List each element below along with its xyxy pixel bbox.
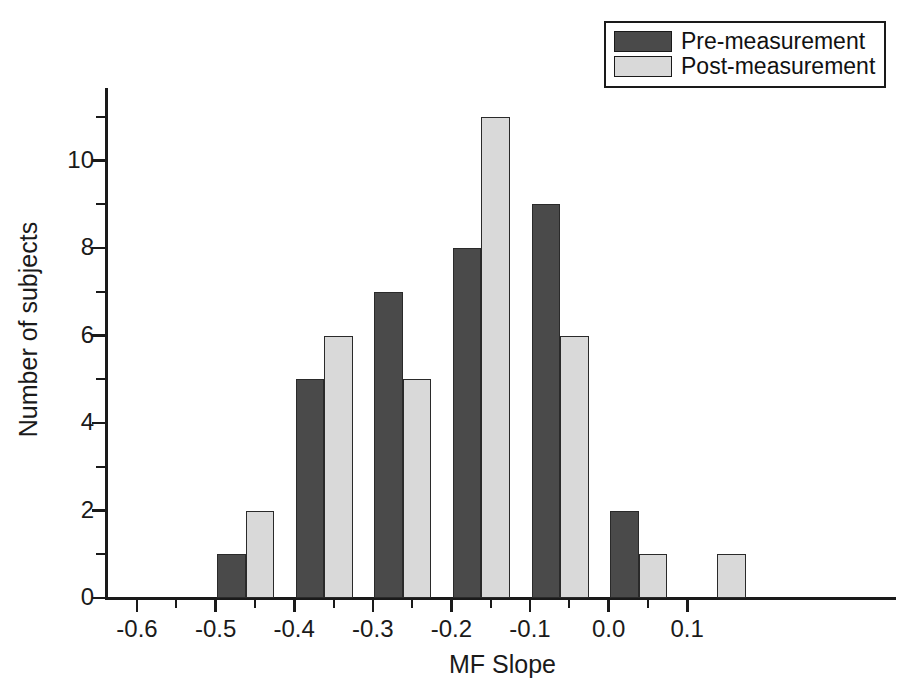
bar-post-0.1 bbox=[717, 554, 746, 598]
legend-label-pre: Pre-measurement bbox=[681, 30, 865, 53]
y-tick-label: 6 bbox=[81, 323, 94, 347]
x-tick-major bbox=[293, 599, 296, 612]
legend-entry-post: Post-measurement bbox=[614, 54, 876, 79]
x-tick-minor bbox=[647, 599, 649, 608]
x-tick-minor bbox=[411, 599, 413, 608]
y-tick-label: 4 bbox=[81, 410, 94, 434]
x-axis-title: MF Slope bbox=[105, 650, 900, 679]
x-tick-label: -0.5 bbox=[195, 616, 236, 642]
y-tick-label: 0 bbox=[81, 585, 94, 609]
x-tick-minor bbox=[333, 599, 335, 608]
bar-pre--0.3 bbox=[374, 292, 403, 598]
x-tick-label: -0.2 bbox=[431, 616, 472, 642]
y-tick-minor bbox=[96, 378, 105, 380]
legend-label-post: Post-measurement bbox=[681, 55, 875, 78]
x-tick-minor bbox=[568, 599, 570, 608]
x-tick-major bbox=[450, 599, 453, 612]
x-tick-label: -0.6 bbox=[116, 616, 157, 642]
bar-post--0.5 bbox=[246, 511, 275, 599]
bar-pre--0.1 bbox=[532, 204, 561, 598]
x-tick-major bbox=[686, 599, 689, 612]
x-tick-major bbox=[136, 599, 139, 612]
x-tick-minor bbox=[254, 599, 256, 608]
y-tick-label: 2 bbox=[81, 498, 94, 522]
x-tick-label: -0.4 bbox=[274, 616, 315, 642]
x-tick-minor bbox=[175, 599, 177, 608]
y-tick-minor bbox=[96, 553, 105, 555]
bars-layer bbox=[105, 88, 900, 598]
bar-post--0.3 bbox=[403, 379, 432, 598]
bar-pre--0.4 bbox=[296, 379, 325, 598]
y-tick-label: 8 bbox=[81, 235, 94, 259]
x-tick-major bbox=[607, 599, 610, 612]
legend-entry-pre: Pre-measurement bbox=[614, 29, 876, 54]
y-tick-minor bbox=[96, 203, 105, 205]
x-tick-label: 0.0 bbox=[592, 616, 625, 642]
chart-legend: Pre-measurement Post-measurement bbox=[604, 21, 886, 88]
bar-pre--0.5 bbox=[217, 554, 246, 598]
y-tick-minor bbox=[96, 116, 105, 118]
bar-post-0.0 bbox=[639, 554, 668, 598]
bar-pre-0.0 bbox=[610, 511, 639, 599]
bar-post--0.4 bbox=[324, 336, 353, 599]
x-tick-label: -0.3 bbox=[352, 616, 393, 642]
bar-post--0.1 bbox=[560, 336, 589, 599]
x-tick-minor bbox=[490, 599, 492, 608]
y-tick-minor bbox=[96, 291, 105, 293]
bar-pre--0.2 bbox=[453, 248, 482, 598]
bar-post--0.2 bbox=[481, 117, 510, 598]
x-tick-major bbox=[529, 599, 532, 612]
x-tick-label: -0.1 bbox=[509, 616, 550, 642]
bar-chart-figure: 0246810-0.6-0.5-0.4-0.3-0.2-0.10.00.1 MF… bbox=[0, 0, 910, 682]
y-axis-title: Number of subjects bbox=[14, 70, 43, 590]
x-tick-label: 0.1 bbox=[671, 616, 704, 642]
x-tick-major bbox=[214, 599, 217, 612]
y-tick-minor bbox=[96, 466, 105, 468]
light-gray-swatch bbox=[614, 56, 672, 77]
y-tick-label: 10 bbox=[67, 148, 94, 172]
dark-gray-swatch bbox=[614, 31, 672, 52]
x-tick-major bbox=[372, 599, 375, 612]
